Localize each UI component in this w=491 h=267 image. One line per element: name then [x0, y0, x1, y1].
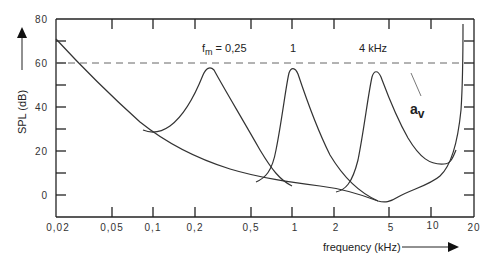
peak-label-1khz: 1: [290, 42, 296, 54]
masking-curve-0.25khz: [143, 68, 292, 186]
y-axis-arrow: [17, 27, 27, 70]
x-axis-title: frequency (kHz): [323, 241, 401, 253]
av-main: a: [410, 101, 418, 117]
threshold-in-quiet-curve: [56, 24, 463, 202]
masking-curve-4khz: [336, 72, 456, 192]
x-tick-label-2: 2: [333, 222, 340, 233]
fm-subscript: m: [205, 47, 213, 57]
x-tick-label-0.1: 0,1: [145, 222, 162, 233]
av-pointer-line: [411, 73, 421, 96]
fm-label: fm = 0,25: [202, 42, 247, 57]
spl-chart: 80 60 40 20 0 0,02 0,05 0,1 0,2 0,5 1 2 …: [0, 0, 491, 267]
y-tick-label-80: 80: [35, 14, 48, 25]
y-ticks-left: [56, 41, 66, 195]
x-tick-label-0.05: 0,05: [100, 222, 123, 233]
x-tick-label-5: 5: [388, 222, 395, 233]
x-tick-label-0.02: 0,02: [46, 222, 69, 233]
plot-frame: [56, 19, 474, 217]
y-axis-title: SPL (dB): [16, 90, 28, 134]
x-tick-label-1: 1: [292, 222, 299, 233]
x-ticks-bottom: [112, 207, 431, 217]
peak-label-4khz: 4 kHz: [359, 42, 387, 54]
x-tick-label-20: 20: [467, 222, 480, 233]
y-tick-label-0: 0: [41, 190, 48, 201]
y-tick-label-40: 40: [35, 102, 48, 113]
av-label: av: [410, 101, 425, 121]
av-subscript: v: [418, 107, 425, 121]
x-ticks-top: [112, 19, 431, 29]
fm-value: = 0,25: [213, 42, 247, 54]
masking-curve-1khz: [256, 69, 378, 201]
x-tick-label-0.2: 0,2: [187, 222, 204, 233]
y-ticks-right: [464, 41, 474, 195]
y-tick-label-20: 20: [35, 146, 48, 157]
x-axis-arrow: [402, 242, 459, 252]
x-tick-label-0.5: 0,5: [243, 222, 260, 233]
x-tick-label-10: 10: [426, 220, 439, 231]
y-tick-label-60: 60: [35, 58, 48, 69]
